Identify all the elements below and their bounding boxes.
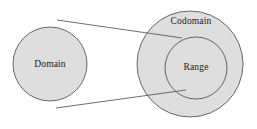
range-label: Range xyxy=(183,62,208,72)
domain-label: Domain xyxy=(34,59,66,69)
codomain-label: Codomain xyxy=(171,16,212,26)
diagram-canvas: Domain Codomain Range xyxy=(0,0,257,129)
set-mapping-diagram: Domain Codomain Range xyxy=(0,0,257,129)
